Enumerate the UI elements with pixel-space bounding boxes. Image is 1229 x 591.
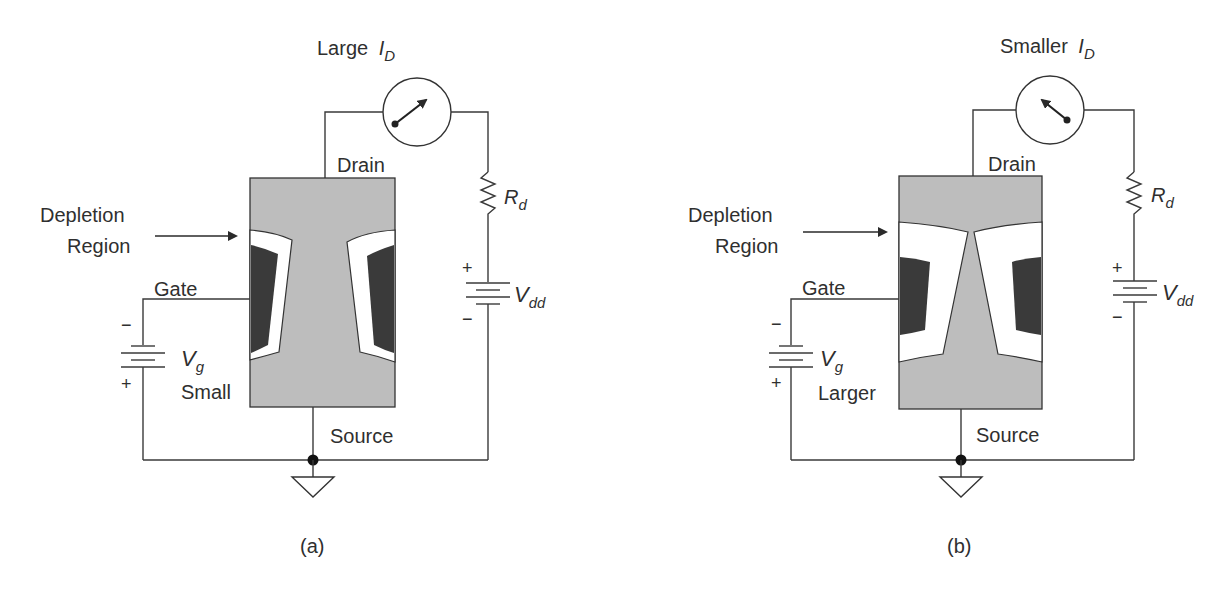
- drain-label-b: Drain: [988, 153, 1036, 175]
- wire-gate: [143, 299, 250, 345]
- wire-meter-resistor: [1084, 110, 1134, 172]
- vg-state-a: Small: [181, 381, 231, 403]
- gate-label-b: Gate: [802, 277, 845, 299]
- vdd-minus-a: −: [462, 309, 473, 329]
- resistor-icon: [1127, 172, 1141, 268]
- depletion-label-b-line2: Region: [715, 235, 778, 257]
- resistor-icon: [481, 172, 495, 270]
- wire-meter-resistor: [451, 112, 488, 172]
- vg-battery-icon: [121, 346, 165, 460]
- ammeter-icon: [1016, 76, 1084, 144]
- vg-minus-a: −: [121, 315, 132, 335]
- vg-battery-icon: [769, 346, 813, 460]
- ground-icon: [940, 460, 982, 497]
- panel-b: Smaller ID Rd + − Vdd: [688, 35, 1194, 557]
- ammeter-icon: [383, 78, 451, 146]
- vdd-label-a: Vdd: [514, 282, 546, 311]
- caption-b: (b): [947, 535, 971, 557]
- vg-plus-a: +: [121, 374, 132, 394]
- panel-a: Large ID Rd + − Vdd: [40, 37, 546, 557]
- jfet-body-a: [250, 178, 395, 407]
- ground-icon: [292, 460, 334, 497]
- vdd-plus-b: +: [1112, 258, 1123, 278]
- meter-label-b: Smaller ID: [1000, 35, 1095, 62]
- wire-gate: [791, 299, 899, 345]
- vdd-label-b: Vdd: [1162, 280, 1194, 309]
- depletion-label-a-line1: Depletion: [40, 204, 125, 226]
- meter-label-a: Large ID: [317, 37, 395, 64]
- caption-a: (a): [300, 535, 324, 557]
- jfet-figure: Large ID Rd + − Vdd: [0, 0, 1229, 591]
- gate-label-a: Gate: [154, 278, 197, 300]
- source-label-b: Source: [976, 424, 1039, 446]
- vg-minus-b: −: [771, 314, 782, 334]
- depletion-label-b-line1: Depletion: [688, 204, 773, 226]
- vdd-plus-a: +: [462, 258, 473, 278]
- vdd-battery-icon: [1113, 268, 1157, 460]
- vdd-battery-icon: [466, 270, 510, 460]
- vg-label-a: Vg: [181, 346, 205, 375]
- resistor-label-a: Rd: [504, 186, 527, 213]
- depletion-label-a-line2: Region: [67, 235, 130, 257]
- vdd-minus-b: −: [1112, 307, 1123, 327]
- source-label-a: Source: [330, 425, 393, 447]
- drain-label-a: Drain: [337, 154, 385, 176]
- jfet-body-b: [899, 176, 1042, 409]
- resistor-label-b: Rd: [1151, 184, 1174, 211]
- vg-label-b: Vg: [820, 346, 844, 375]
- vg-plus-b: +: [771, 373, 782, 393]
- vg-state-b: Larger: [818, 382, 876, 404]
